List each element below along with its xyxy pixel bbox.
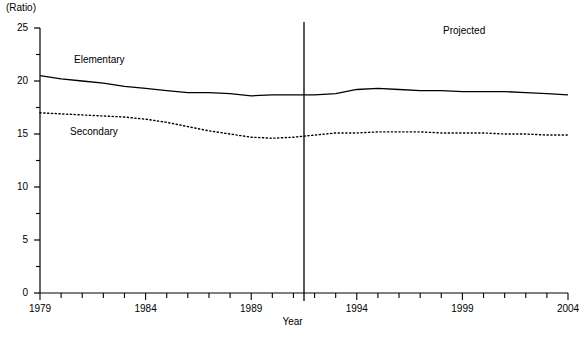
- y-tick-label: 10: [4, 181, 28, 192]
- ratio-line-chart: (Ratio) Elementary Secondary Projected Y…: [0, 0, 585, 337]
- x-tick-label: 1984: [126, 303, 166, 314]
- chart-plot-area: [0, 0, 585, 337]
- y-tick-label: 0: [4, 287, 28, 298]
- y-axis-ticks: [34, 28, 40, 293]
- x-tick-label: 1979: [20, 303, 60, 314]
- elementary-series-label: Elementary: [74, 54, 125, 65]
- secondary-series-label: Secondary: [70, 126, 118, 137]
- y-tick-label: 15: [4, 128, 28, 139]
- y-tick-label: 25: [4, 22, 28, 33]
- y-axis-unit-label: (Ratio): [6, 2, 36, 13]
- x-tick-label: 1999: [442, 303, 482, 314]
- y-tick-label: 5: [4, 234, 28, 245]
- x-tick-label: 1994: [337, 303, 377, 314]
- x-tick-label: 2004: [548, 303, 585, 314]
- x-axis-title: Year: [0, 316, 585, 327]
- y-tick-label: 20: [4, 75, 28, 86]
- x-tick-label: 1989: [231, 303, 271, 314]
- projected-region-label: Projected: [443, 25, 485, 36]
